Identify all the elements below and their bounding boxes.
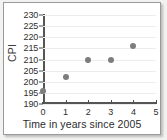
scatter-chart: CPI 190195200205210215220225230012345 Ti…	[4, 3, 160, 134]
x-tick-mark	[88, 100, 89, 104]
y-gridline	[43, 71, 156, 72]
x-tick-mark	[66, 100, 67, 104]
y-tick-label: 190	[24, 99, 38, 109]
y-tick-label: 195	[24, 88, 38, 98]
y-tick-label: 215	[24, 43, 38, 53]
y-gridline	[43, 82, 156, 83]
y-gridline	[43, 93, 156, 94]
y-tick-label: 225	[24, 21, 38, 31]
y-tick-mark	[39, 59, 43, 60]
data-point	[40, 88, 46, 94]
y-gridline	[43, 104, 156, 105]
y-axis-label: CPI	[6, 29, 18, 77]
data-point	[108, 57, 114, 63]
y-gridline	[43, 26, 156, 27]
y-tick-label: 220	[24, 32, 38, 42]
y-tick-mark	[39, 81, 43, 82]
y-gridline	[43, 48, 156, 49]
plot-area: 190195200205210215220225230012345	[43, 15, 156, 104]
data-point	[63, 74, 69, 80]
y-tick-label: 230	[24, 10, 38, 20]
y-tick-mark	[39, 48, 43, 49]
x-tick-label: 3	[108, 107, 113, 117]
x-axis-label: Time in years since 2005	[4, 118, 160, 130]
data-point	[85, 57, 91, 63]
y-tick-label: 200	[24, 77, 38, 87]
x-tick-label: 1	[63, 107, 68, 117]
x-tick-label: 0	[40, 107, 45, 117]
x-tick-mark	[156, 100, 157, 104]
y-gridline	[43, 15, 156, 16]
x-tick-mark	[43, 100, 44, 104]
x-tick-label: 4	[131, 107, 136, 117]
y-gridline	[43, 60, 156, 61]
x-tick-label: 2	[86, 107, 91, 117]
x-tick-label: 5	[153, 107, 158, 117]
x-tick-mark	[133, 100, 134, 104]
screenshot-root: CPI 190195200205210215220225230012345 Ti…	[0, 0, 167, 140]
y-tick-mark	[39, 70, 43, 71]
y-tick-label: 205	[24, 66, 38, 76]
y-tick-mark	[39, 26, 43, 27]
chart-frame: CPI 190195200205210215220225230012345 Ti…	[3, 2, 161, 135]
y-gridline	[43, 37, 156, 38]
y-tick-mark	[39, 15, 43, 16]
y-tick-label: 210	[24, 55, 38, 65]
y-tick-mark	[39, 37, 43, 38]
x-tick-mark	[111, 100, 112, 104]
